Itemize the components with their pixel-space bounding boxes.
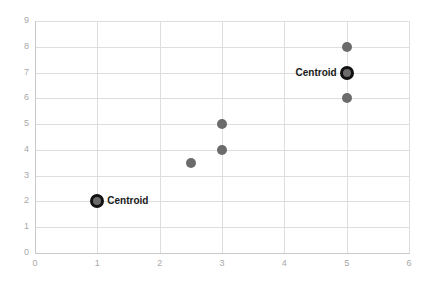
x-tick-label-2: 2: [148, 258, 172, 269]
x-tick-label-6: 6: [397, 258, 421, 269]
centroid-inner-point: [343, 69, 351, 77]
y-axis-line: [35, 21, 36, 254]
plot-border-top: [35, 21, 410, 22]
centroid-label: Centroid: [107, 195, 148, 206]
centroid-label: Centroid: [296, 67, 337, 78]
x-tick-label-4: 4: [272, 258, 296, 269]
scatter-chart: CentroidCentroid 0123456 0123456789: [0, 0, 426, 288]
y-tick-label-3: 3: [9, 170, 29, 181]
gridline-x-2: [160, 21, 161, 253]
data-point: [186, 158, 196, 168]
gridline-x-1: [97, 21, 98, 253]
y-tick-label-0: 0: [9, 247, 29, 258]
gridline-x-3: [222, 21, 223, 253]
x-tick-label-3: 3: [210, 258, 234, 269]
x-tick-label-0: 0: [23, 258, 47, 269]
data-point: [217, 119, 227, 129]
x-tick-label-5: 5: [335, 258, 359, 269]
y-tick-label-2: 2: [9, 195, 29, 206]
y-tick-label-5: 5: [9, 118, 29, 129]
data-point: [217, 145, 227, 155]
y-tick-label-4: 4: [9, 144, 29, 155]
data-point: [342, 93, 352, 103]
gridline-x-4: [284, 21, 285, 253]
plot-border-right: [409, 21, 410, 254]
data-point: [342, 42, 352, 52]
x-axis-line: [35, 253, 410, 254]
y-tick-label-7: 7: [9, 67, 29, 78]
y-tick-label-6: 6: [9, 92, 29, 103]
x-tick-label-1: 1: [85, 258, 109, 269]
y-tick-label-1: 1: [9, 221, 29, 232]
gridline-x-5: [347, 21, 348, 253]
y-tick-label-9: 9: [9, 15, 29, 26]
y-tick-label-8: 8: [9, 41, 29, 52]
plot-area: CentroidCentroid: [35, 21, 409, 253]
